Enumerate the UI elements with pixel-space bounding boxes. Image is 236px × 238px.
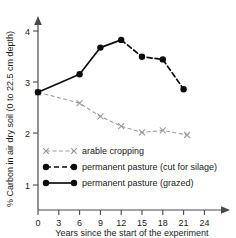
series-arable-cropping: [35, 89, 190, 138]
series-permanent-pasture-grazed-markers: [35, 37, 125, 96]
x-tick-label-15: 15: [137, 218, 147, 228]
series-permanent-pasture-grazed-line: [38, 40, 121, 92]
legend-label-permanent-pasture-grazed: permanent pasture (grazed): [82, 178, 194, 188]
y-tick-label-2: 2: [25, 129, 30, 139]
soil-carbon-line-chart: 4 3 2 1 0 3 6 9 12 15 18 21: [0, 0, 236, 238]
marker-x-9: [97, 113, 103, 119]
x-tick-label-0: 0: [35, 218, 40, 228]
marker-dot-grazed-6: [76, 71, 82, 77]
x-axis-arrow-icon: [221, 206, 230, 214]
x-axis: [38, 206, 230, 214]
legend-marker-dot-grazed-start-icon: [43, 180, 49, 186]
y-tick-label-4: 4: [25, 27, 30, 37]
marker-dot-silage-15: [139, 54, 145, 60]
legend-marker-dot-silage-start-icon: [43, 164, 49, 170]
legend-marker-dot-silage-end-icon: [71, 164, 77, 170]
legend-item-arable-cropping: arable cropping: [43, 146, 144, 156]
x-tick-label-12: 12: [116, 218, 126, 228]
y-axis-title: % Carbon in air dry soil (0 to 22.5 cm d…: [5, 31, 15, 207]
series-permanent-pasture-silage-markers: [139, 54, 187, 93]
legend-item-permanent-pasture-grazed: permanent pasture (grazed): [43, 178, 194, 188]
marker-dot-grazed-0: [35, 89, 41, 95]
y-tick-label-1: 1: [25, 181, 30, 191]
series-permanent-pasture-silage-line: [121, 40, 183, 89]
legend-label-arable-cropping: arable cropping: [82, 146, 144, 156]
marker-x-12: [118, 123, 124, 129]
marker-dot-grazed-9: [97, 44, 103, 50]
x-tick-label-18: 18: [158, 218, 168, 228]
x-tick-group: 0 3 6 9 12 15 18 21 24: [35, 210, 209, 228]
x-tick-label-6: 6: [77, 218, 82, 228]
y-axis: [34, 16, 42, 210]
x-axis-title: Years since the start of the experiment: [55, 228, 209, 238]
y-axis-arrow-icon: [34, 16, 42, 25]
series-permanent-pasture-silage: [121, 40, 187, 93]
x-tick-label-24: 24: [199, 218, 209, 228]
y-tick-label-3: 3: [25, 78, 30, 88]
marker-x-21: [184, 132, 190, 138]
chart-container: 4 3 2 1 0 3 6 9 12 15 18 21: [0, 0, 236, 238]
series-permanent-pasture-grazed: [35, 37, 125, 96]
marker-dot-silage-18: [160, 56, 166, 62]
y-tick-group: 4 3 2 1: [25, 27, 38, 191]
chart-legend: arable cropping permanent pasture (cut f…: [43, 146, 217, 188]
x-tick-label-21: 21: [179, 218, 189, 228]
legend-marker-dot-grazed-end-icon: [71, 180, 77, 186]
legend-label-permanent-pasture-silage: permanent pasture (cut for silage): [82, 162, 217, 172]
x-tick-label-3: 3: [56, 218, 61, 228]
x-tick-label-9: 9: [98, 218, 103, 228]
marker-dot-silage-21: [180, 86, 186, 92]
legend-item-permanent-pasture-silage: permanent pasture (cut for silage): [43, 162, 217, 172]
